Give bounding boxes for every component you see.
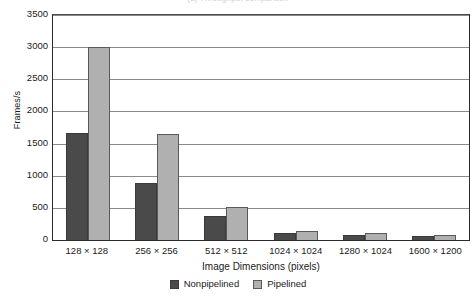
legend-swatch-icon — [253, 280, 262, 289]
bar-pipelined[interactable] — [296, 231, 318, 240]
y-axis-tick-label: 3500 — [6, 9, 48, 19]
legend-entry[interactable]: Pipelined — [253, 278, 306, 290]
bar-pipelined[interactable] — [157, 134, 179, 240]
x-axis-tick-label: 1024 × 1024 — [261, 244, 331, 258]
chart-legend: NonpipelinedPipelined — [0, 278, 476, 290]
y-axis-tick-label: 500 — [6, 202, 48, 212]
y-axis-tick-label: 1000 — [6, 170, 48, 180]
x-axis-tick-label: 128 × 128 — [52, 244, 122, 258]
y-axis-tick-labels: 0500100015002000250030003500 — [6, 9, 48, 241]
bar-groups — [53, 15, 469, 240]
x-axis-tick-labels: 128 × 128256 × 256512 × 5121024 × 102412… — [52, 244, 470, 258]
bar-group — [261, 15, 330, 240]
bar-pipelined[interactable] — [226, 207, 248, 240]
x-axis-title: Image Dimensions (pixels) — [52, 260, 470, 273]
y-axis-tick-label: 3000 — [6, 41, 48, 51]
bar-group — [53, 15, 122, 240]
bar-pipelined[interactable] — [365, 233, 387, 240]
x-axis-tick-label: 512 × 512 — [191, 244, 261, 258]
legend-label: Nonpipelined — [184, 278, 239, 290]
y-axis-tick-label: 0 — [6, 234, 48, 244]
bar-group — [400, 15, 469, 240]
x-axis-tick-label: 1280 × 1024 — [331, 244, 401, 258]
plot-area — [52, 14, 470, 241]
bar-chart-figure: Frames/s 0500100015002000250030003500 12… — [0, 0, 476, 299]
legend-label: Pipelined — [267, 278, 306, 290]
y-axis-tick-label: 2500 — [6, 73, 48, 83]
x-axis-tick-label: 256 × 256 — [122, 244, 192, 258]
bar-pipelined[interactable] — [88, 47, 110, 241]
bar-nonpipelined[interactable] — [412, 236, 434, 240]
legend-entry[interactable]: Nonpipelined — [170, 278, 239, 290]
bar-nonpipelined[interactable] — [204, 216, 226, 240]
bar-pipelined[interactable] — [434, 235, 456, 240]
bar-nonpipelined[interactable] — [135, 183, 157, 240]
bar-nonpipelined[interactable] — [274, 233, 296, 240]
bar-group — [330, 15, 399, 240]
bar-nonpipelined[interactable] — [343, 235, 365, 240]
bar-nonpipelined[interactable] — [66, 133, 88, 240]
y-axis-tick-label: 1500 — [6, 138, 48, 148]
bar-group — [192, 15, 261, 240]
y-axis-tick-label: 2000 — [6, 105, 48, 115]
legend-swatch-icon — [170, 280, 179, 289]
x-axis-tick-label: 1600 × 1200 — [400, 244, 470, 258]
bar-group — [122, 15, 191, 240]
